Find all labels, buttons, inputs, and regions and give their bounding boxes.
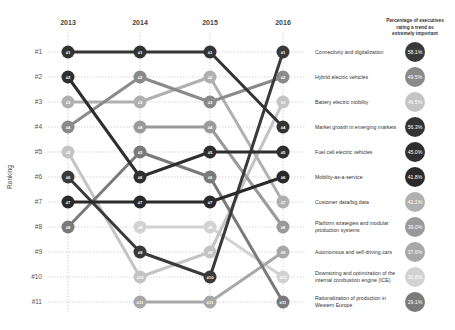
node-rank-label: #3 xyxy=(281,100,286,105)
pct-value: 58.1% xyxy=(408,49,423,55)
series-node: #1 xyxy=(134,46,147,59)
series-node: #4 xyxy=(134,121,147,134)
trend-label: Battery electric mobility xyxy=(315,99,369,105)
series-node: #6 xyxy=(277,171,290,184)
pct-value: 45.0% xyxy=(408,149,423,155)
pct-value: 41.1% xyxy=(408,199,423,205)
node-rank-label: #3 xyxy=(66,100,71,105)
year-label-2013: 2013 xyxy=(60,19,76,26)
rank-tick-label: #10 xyxy=(31,273,42,280)
series-node: #3 xyxy=(277,96,290,109)
legend-item: Customer data/big data41.1% xyxy=(315,192,425,212)
node-rank-label: #4 xyxy=(138,125,143,130)
rank-tick-label: #2 xyxy=(35,73,43,80)
node-rank-label: #1 xyxy=(281,50,286,55)
series-node: #1 xyxy=(204,46,217,59)
series-node: #4 xyxy=(62,121,75,134)
node-rank-label: #7 xyxy=(66,200,71,205)
series-node: #7 xyxy=(62,196,75,209)
node-rank-label: #10 xyxy=(207,275,215,280)
node-rank-label: #4 xyxy=(208,125,213,130)
series-node: #3 xyxy=(204,96,217,109)
node-rank-label: #6 xyxy=(138,175,143,180)
legend-item: Connectivity and digitalization58.1% xyxy=(315,42,425,62)
trend-label: Mobility-as-a-service xyxy=(315,174,363,180)
legend-item: Battery electric mobility46.5% xyxy=(315,92,425,112)
series-node: #7 xyxy=(277,196,290,209)
series-node: #1 xyxy=(62,46,75,59)
rank-tick-label: #6 xyxy=(35,173,43,180)
series-node: #7 xyxy=(134,196,147,209)
series-node: #6 xyxy=(62,171,75,184)
node-rank-label: #10 xyxy=(137,275,145,280)
node-rank-label: #10 xyxy=(280,275,288,280)
node-rank-label: #8 xyxy=(66,225,71,230)
legend-item: Hybrid electric vehicles49.5% xyxy=(315,67,425,87)
trend-label: Connectivity and digitalization xyxy=(315,49,383,55)
series-node: #8 xyxy=(134,221,147,234)
legend-item: Market growth in emerging markets56.3% xyxy=(315,117,425,137)
legend-item: Downsizing and optimization of theintern… xyxy=(315,267,425,287)
trend-label: Platform strategies and modularproductio… xyxy=(315,220,389,233)
rank-tick-label: #5 xyxy=(35,148,43,155)
series-node: #11 xyxy=(134,296,147,309)
legend: Connectivity and digitalization58.1%Hybr… xyxy=(315,42,425,312)
node-rank-label: #7 xyxy=(281,200,286,205)
node-rank-label: #1 xyxy=(208,50,213,55)
series-node: #3 xyxy=(134,96,147,109)
trend-label: Fuel cell electric vehicles xyxy=(315,149,373,155)
node-rank-label: #5 xyxy=(66,150,71,155)
series-node: #8 xyxy=(62,221,75,234)
legend-title: Percentage of executivesrating a trend a… xyxy=(386,18,444,36)
pct-value: 39.0% xyxy=(408,224,423,230)
trend-label: Autonomous and self-driving cars xyxy=(315,249,392,255)
node-rank-label: #1 xyxy=(138,50,143,55)
trend-label: Customer data/big data xyxy=(315,199,369,205)
node-rank-label: #4 xyxy=(66,125,71,130)
trend-label: Hybrid electric vehicles xyxy=(315,74,368,80)
node-rank-label: #5 xyxy=(138,150,143,155)
series-node: #4 xyxy=(277,121,290,134)
series-node: #9 xyxy=(204,246,217,259)
series-node: #5 xyxy=(277,146,290,159)
series-node: #10 xyxy=(277,271,290,284)
series-node: #5 xyxy=(204,146,217,159)
node-rank-label: #6 xyxy=(66,175,71,180)
year-label-2016: 2016 xyxy=(275,19,291,26)
year-labels: 2013201420152016 xyxy=(60,19,291,26)
year-label-2015: 2015 xyxy=(202,19,218,26)
node-rank-label: #3 xyxy=(138,100,143,105)
series-node: #6 xyxy=(204,171,217,184)
node-rank-label: #8 xyxy=(281,225,286,230)
node-rank-label: #5 xyxy=(281,150,286,155)
node-rank-label: #9 xyxy=(138,250,143,255)
node-rank-label: #4 xyxy=(281,125,286,130)
series-node: #1 xyxy=(277,46,290,59)
node-rank-label: #6 xyxy=(208,175,213,180)
legend-item: Mobility-as-a-service41.8% xyxy=(315,167,425,187)
rank-tick-label: #9 xyxy=(35,248,43,255)
node-rank-label: #8 xyxy=(208,225,213,230)
rank-tick-label: #11 xyxy=(32,298,43,305)
node-rank-label: #2 xyxy=(281,75,286,80)
node-rank-label: #2 xyxy=(208,75,213,80)
trend-label: Market growth in emerging markets xyxy=(315,124,397,130)
node-rank-label: #3 xyxy=(208,100,213,105)
node-rank-label: #1 xyxy=(66,50,71,55)
node-rank-label: #7 xyxy=(138,200,143,205)
series-node: #8 xyxy=(204,221,217,234)
series-node: #11 xyxy=(277,296,290,309)
node-rank-label: #6 xyxy=(281,175,286,180)
rank-tick-label: #3 xyxy=(35,98,43,105)
trend-label: Rationalization of production inWestern … xyxy=(315,295,386,308)
node-rank-label: #11 xyxy=(280,300,287,305)
y-axis-title: Ranking xyxy=(6,165,14,189)
series-node: #10 xyxy=(134,271,147,284)
rank-labels: #1#2#3#4#5#6#7#8#9#10#11 xyxy=(31,48,42,305)
node-rank-label: #2 xyxy=(66,75,71,80)
node-rank-label: #11 xyxy=(207,300,214,305)
bump-chart: 2013201420152016 #1#2#3#4#5#6#7#8#9#10#1… xyxy=(0,0,455,330)
pct-value: 56.3% xyxy=(408,124,423,130)
series-node: #4 xyxy=(204,121,217,134)
legend-item: Platform strategies and modularproductio… xyxy=(315,217,425,237)
